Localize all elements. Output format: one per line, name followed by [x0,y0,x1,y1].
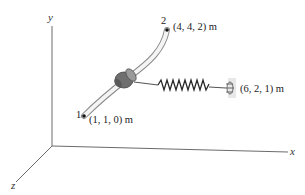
z-axis-label: z [11,180,15,191]
z-axis-line [16,146,52,182]
point-2-coordinates: (4, 4, 2) m [173,22,217,33]
wall-anchor [226,78,236,98]
point-2-number: 2 [161,16,166,27]
point-1-number: 1 [76,110,81,121]
point-1-coordinates: (1, 1, 0) m [89,115,133,126]
spring [134,80,226,90]
diagram-svg [0,0,305,195]
point-1-marker [82,114,86,118]
x-axis-label: x [290,146,295,157]
point-2-marker [165,28,169,32]
anchor-coordinates: (6, 2, 1) m [240,84,284,95]
axes [16,26,288,182]
diagram-canvas: y x z 1 (1, 1, 0) m 2 (4, 4, 2) m (6, 2,… [0,0,305,195]
x-axis-line [52,146,288,152]
y-axis-label: y [48,12,53,23]
